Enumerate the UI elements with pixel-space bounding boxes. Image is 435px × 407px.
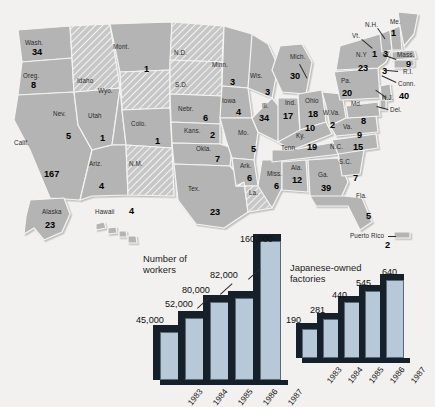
state-shape-wy [120, 70, 170, 110]
state-label-pa: Pa. [341, 78, 351, 84]
bar-value-4: 640 [382, 268, 397, 277]
state-label-nc: N.C. [330, 144, 343, 150]
state-shape-hi4 [128, 236, 137, 243]
state-label-calif: Calif. [14, 140, 29, 146]
state-value-tenn: 19 [307, 143, 317, 152]
bar-value-2: 440 [332, 291, 347, 300]
bar-value-0: 45,000 [136, 316, 164, 325]
state-label-ark: Ark. [240, 163, 252, 169]
chart-baseline [302, 358, 410, 363]
state-label-wis: Wis. [250, 73, 263, 79]
state-value-wis: 3 [265, 88, 270, 97]
state-value-nebr: 6 [203, 114, 208, 123]
state-value-tex: 23 [210, 208, 220, 217]
leader-line-pr [388, 236, 396, 237]
bar-1987 [260, 241, 281, 380]
state-value-okla: 7 [215, 155, 220, 164]
bar-value-3: 82,000 [210, 271, 238, 280]
state-label-oreg: Oreg. [23, 73, 39, 79]
state-value-nj: 40 [399, 92, 409, 101]
state-label-wyo: Wyo. [98, 88, 113, 94]
bar-top-1984 [178, 311, 206, 318]
bar-shadow-1984 [178, 311, 185, 380]
state-value-me: 1 [391, 29, 396, 38]
state-label-vt: Vt. [352, 33, 360, 39]
state-shape-co [122, 108, 172, 148]
state-label-miss: Miss. [267, 171, 282, 177]
bar-value-2: 80,000 [182, 286, 210, 295]
state-label-mo: Mo. [238, 130, 249, 136]
state-shape-pr [394, 232, 410, 238]
state-label-ky: Ky. [296, 133, 305, 139]
bar-1987 [386, 280, 404, 358]
state-shape-fl [310, 196, 372, 230]
state-value-ark: 6 [247, 174, 252, 183]
state-shape-hi1 [96, 222, 106, 230]
x-tick-1984: 1984 [212, 388, 230, 407]
x-tick-1983: 1983 [187, 388, 205, 407]
state-value-ny: 23 [358, 64, 368, 73]
state-label-ariz: Ariz. [89, 161, 102, 167]
state-label-iowa: Iowa [222, 98, 236, 104]
state-label-va: Va. [343, 124, 352, 130]
state-shape-mi [272, 44, 312, 94]
state-value-ohio: 18 [308, 110, 318, 119]
x-tick-1987: 1987 [410, 366, 428, 385]
state-value-mich: 30 [290, 72, 300, 81]
state-shape-ak [24, 198, 70, 240]
state-label-okla: Okla. [196, 146, 211, 152]
state-label-colo: Colo. [131, 121, 146, 127]
state-value-ky: 10 [305, 124, 315, 133]
state-label-del: Del. [390, 107, 402, 113]
state-label-ohio: Ohio [305, 98, 319, 104]
x-tick-1985: 1985 [237, 388, 255, 407]
state-label-la: La. [249, 190, 258, 196]
state-label-hawaii: Hawaii [95, 209, 115, 215]
state-label-md: Md. [351, 101, 362, 107]
state-value-calif: 167 [44, 170, 59, 179]
chart-japanese-owned-factories: Japanese-owned factories 198319841985198… [288, 248, 435, 398]
x-tick-1986: 1986 [262, 388, 280, 407]
state-value-miss: 6 [274, 182, 279, 191]
state-value-alaska: 23 [45, 221, 55, 230]
chart-factories-bars: 19831984198519861987190281440545640 [288, 248, 435, 398]
x-tick-1986: 1986 [389, 366, 407, 385]
state-value-vt: 1 [372, 50, 377, 59]
state-value-iowa: 4 [236, 108, 241, 117]
state-value-mo: 5 [251, 145, 256, 154]
bar-shadow-1986 [228, 291, 235, 380]
state-value-va: 9 [357, 131, 362, 140]
state-value-wva: 2 [330, 121, 335, 130]
state-label-ri: R.I. [403, 69, 413, 75]
state-label-utah: Utah [88, 113, 102, 119]
state-label-nev: Nev. [53, 111, 66, 117]
state-label-ga: Ga. [318, 172, 328, 178]
state-label-mass: Mass. [397, 52, 414, 58]
state-value-wash: 34 [32, 48, 42, 57]
state-label-nh: N.H. [365, 22, 378, 28]
state-value-fla: 5 [366, 212, 371, 221]
state-label-nm: N.M. [129, 161, 143, 167]
state-shape-hi3 [119, 231, 127, 237]
state-label-ill: Ill. [262, 103, 269, 109]
state-value-ala: 12 [292, 176, 302, 185]
state-label-wash: Wash. [25, 40, 43, 46]
bar-value-1: 281 [310, 306, 325, 315]
state-value-utah: 1 [100, 134, 105, 143]
state-value-ri: 3 [382, 67, 387, 76]
state-value-oreg: 8 [31, 81, 36, 90]
state-value-mont: 1 [144, 65, 149, 74]
state-label-kans: Kans. [184, 128, 201, 134]
state-label-alaska: Alaska [42, 209, 62, 215]
x-tick-1985: 1985 [368, 366, 386, 385]
bar-value-0: 190 [286, 316, 301, 325]
x-tick-1983: 1983 [326, 366, 344, 385]
x-tick-1984: 1984 [347, 366, 365, 385]
state-value-md: 8 [361, 117, 366, 126]
state-value-minn: 3 [230, 78, 235, 87]
state-value-colo: 1 [155, 137, 160, 146]
state-value-hawaii: 4 [129, 207, 134, 216]
state-label-idaho: Idaho [77, 78, 93, 84]
state-value-ariz: 4 [99, 182, 104, 191]
